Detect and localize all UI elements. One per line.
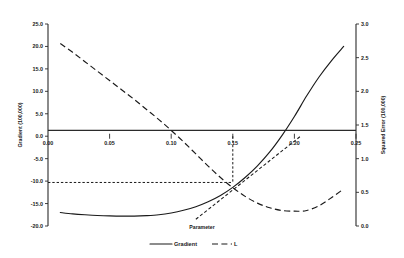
right-tick-label: 0.5: [361, 189, 369, 195]
right-axis-ticks: 0.00.51.01.52.02.53.0: [356, 21, 369, 229]
right-tick-label: 1.0: [361, 156, 369, 162]
right-tick-label: 3.0: [361, 21, 369, 27]
right-tick-label: 2.5: [361, 55, 369, 61]
left-tick-label: 15.0: [33, 66, 44, 72]
right-axis-title: Squared Error (100,000): [380, 95, 386, 154]
left-tick-label: -15.0: [31, 201, 43, 207]
left-tick-label: 25.0: [33, 21, 44, 27]
legend: Gradient L: [150, 241, 238, 247]
right-axis: 0.00.51.01.52.02.53.0 Squared Error (100…: [356, 21, 386, 229]
chart-svg: -20.0-15.0-10.0-5.00.05.010.015.020.025.…: [0, 0, 404, 258]
left-tick-label: -20.0: [31, 223, 43, 229]
left-axis: -20.0-15.0-10.0-5.00.05.010.015.020.025.…: [17, 21, 48, 229]
left-tick-label: 20.0: [33, 43, 44, 49]
legend-label-gradient: Gradient: [174, 241, 197, 247]
left-tick-label: 0.0: [36, 133, 44, 139]
x-axis-title: Parameter: [189, 224, 214, 230]
left-tick-label: 10.0: [33, 88, 44, 94]
tangent-line: [196, 136, 301, 219]
right-tick-label: 0.0: [361, 223, 369, 229]
right-tick-label: 1.5: [361, 122, 369, 128]
guide-lines: [48, 136, 233, 182]
x-tick-label: 0.05: [104, 140, 115, 146]
x-tick-label: 0.10: [166, 140, 177, 146]
right-tick-label: 2.0: [361, 88, 369, 94]
left-axis-ticks: -20.0-15.0-10.0-5.00.05.010.015.020.025.…: [31, 21, 48, 229]
series-line-gradient: [60, 46, 343, 216]
left-tick-label: 5.0: [36, 111, 44, 117]
legend-label-l: L: [234, 241, 238, 247]
x-tick-label: 0.00: [43, 140, 54, 146]
x-axis-ticks: 0.000.050.100.150.200.25: [43, 134, 362, 147]
series-line-l: [60, 44, 343, 212]
x-tick-label: 0.25: [351, 140, 362, 146]
left-tick-label: -5.0: [34, 156, 43, 162]
left-tick-label: -10.0: [31, 178, 43, 184]
left-axis-title: Gradient (100,000): [17, 102, 23, 147]
chart-container: -20.0-15.0-10.0-5.00.05.010.015.020.025.…: [0, 0, 404, 258]
